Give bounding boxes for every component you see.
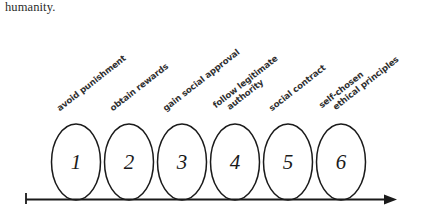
stage-number-5: 5 [278, 150, 298, 175]
stage-ovals [52, 124, 366, 200]
stage-number-2: 2 [119, 150, 139, 175]
stage-number-6: 6 [331, 150, 351, 175]
arrow-head [384, 195, 397, 205]
stage-number-3: 3 [172, 150, 192, 175]
stage-number-4: 4 [225, 150, 245, 175]
stage-number-1: 1 [66, 150, 86, 175]
progression-arrow [26, 193, 397, 205]
diagram-page: humanity. avoid punishment obtain reward… [0, 0, 444, 217]
